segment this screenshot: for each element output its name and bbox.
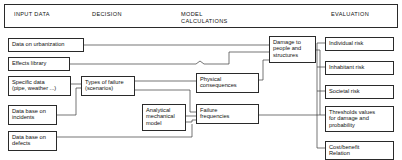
node-failure-frequencies[interactable]: Failure frequencies xyxy=(196,104,259,124)
node-data-on-urbanization[interactable]: Data on urbanization xyxy=(8,38,84,52)
node-individual-risk[interactable]: Individual risk xyxy=(325,37,394,51)
node-thresholds-values[interactable]: Thresholds values for damage and probabi… xyxy=(325,106,394,132)
node-cost-benefit-relation[interactable]: Cost/benefit Relation xyxy=(325,141,394,160)
node-data-base-on-defects[interactable]: Data base on defects xyxy=(8,131,57,151)
node-specific-data[interactable]: Specific data (pipe, weather ...) xyxy=(8,76,71,96)
node-types-of-failure[interactable]: Types of failure (scenarios) xyxy=(81,76,135,96)
node-analytical-mechanical-model[interactable]: Analytical mechanical model xyxy=(142,104,186,131)
node-effects-library[interactable]: Effects library xyxy=(8,57,70,71)
risk-analysis-flow-diagram: INPUT DATA DECISION MODEL CALCULATIONS E… xyxy=(0,0,402,160)
node-data-base-on-incidents[interactable]: Data base on incidents xyxy=(8,105,57,125)
node-societal-risk[interactable]: Societal risk xyxy=(325,85,394,99)
node-physical-consequences[interactable]: Physical consequences xyxy=(196,73,259,93)
node-damage-to-people-and-structures[interactable]: Damage to people and structures xyxy=(269,36,316,63)
node-inhabitant-risk[interactable]: Inhabitant risk xyxy=(325,61,394,75)
